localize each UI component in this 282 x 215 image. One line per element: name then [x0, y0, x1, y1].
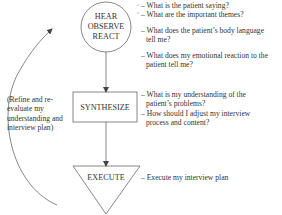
execute-notes: – Execute my interview plan: [141, 173, 228, 182]
synthesize-notes: – What is my understanding of the patien…: [141, 90, 250, 128]
note-line: – Execute my interview plan: [141, 173, 228, 182]
note-line: – What is the patient saying?: [141, 1, 244, 10]
note-line: – How should I adjust my interview: [141, 109, 250, 118]
hear-notes-3: – What does my emotional reaction to the…: [141, 51, 268, 70]
feedback-label-line: (Refine and re-: [7, 95, 63, 104]
note-line: – What is my understanding of the: [141, 90, 250, 99]
feedback-label-line: evaluate my: [7, 104, 63, 113]
observe-label: OBSERVE: [88, 22, 125, 31]
hear-notes-1: – What is the patient saying? – What are…: [141, 1, 244, 20]
react-label: REACT: [93, 32, 120, 41]
note-line: process and content?: [141, 118, 250, 127]
execute-label: EXECUTE: [87, 173, 124, 182]
hear-observe-react-node: HEAR OBSERVE REACT: [81, 2, 131, 52]
note-line: tell me?: [141, 35, 264, 44]
note-line: – What does the patient’s body language: [141, 26, 264, 35]
hear-label: HEAR: [95, 12, 118, 21]
hear-notes-2: – What does the patient’s body language …: [141, 26, 264, 45]
feedback-label-line: interview plan): [7, 123, 63, 132]
feedback-label-line: understanding and: [7, 114, 63, 123]
note-line: – What are the important themes?: [141, 10, 244, 19]
note-line: patient tell me?: [141, 60, 268, 69]
note-line: patient’s problems?: [141, 99, 250, 108]
execute-node: EXECUTE: [73, 166, 140, 214]
synthesize-node: SYNTHESIZE: [73, 92, 137, 122]
feedback-label: (Refine and re- evaluate my understandin…: [7, 95, 63, 132]
note-line: – What does my emotional reaction to the: [141, 51, 268, 60]
synthesize-label: SYNTHESIZE: [80, 103, 130, 112]
